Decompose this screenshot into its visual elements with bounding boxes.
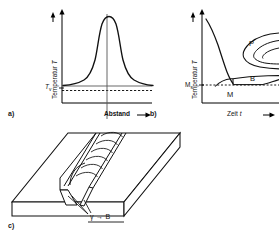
panel-b-graph [191,9,279,117]
callout-arrow-icon: → [96,213,104,220]
panel-a-y-label-arrow [51,12,56,22]
panel-b-pearlite-inner-lower [254,58,279,65]
panel-b-y-axis-label: Temperatur T [192,60,199,99]
panel-a-graph [51,9,153,119]
panel-b-region-bainite: B [250,75,255,83]
panel-b-y-label-arrow [191,12,196,22]
panel-b-x-axis-symbol: t [240,110,242,117]
panel-b-region-martensite: M [227,91,233,99]
panel-a-y-axis-arrow [59,9,64,15]
panel-a-threshold-subscript: v [49,87,51,92]
panel-a-y-axis-label: Temperatur T [52,60,59,99]
panel-b-x-axis-arrow [263,113,275,118]
panel-b-ms-label: Ms [185,82,193,91]
panel-a-x-axis-arrow [137,113,151,118]
callout-bainite-symbol: B [106,213,111,220]
panel-b-bainite-tail [263,80,279,85]
panel-c-tag: c) [8,222,14,229]
panel-a-y-axis-symbol: T [51,60,58,64]
panel-b-ms-subscript: s [190,85,192,90]
weld-transformation-callout: γ→B [90,213,111,220]
panel-b-bainite-top-edge [233,76,279,79]
panel-b-cooling-curve [206,19,233,84]
panel-a-x-axis-label: Abstand [104,111,130,118]
panel-b-tag: b) [150,110,157,117]
panel-b-y-axis-symbol: T [191,60,198,64]
panel-b-region-pearlite: P [249,40,254,48]
callout-gamma-symbol: γ [90,213,94,220]
figure-vector-artwork [0,0,279,243]
panel-b-y-axis-arrow [199,9,204,15]
panel-b-x-axis-label: Zeit t [227,111,241,118]
figure-root: Temperatur T Tv Abstand a) Temperatur T … [0,0,279,243]
panel-a-threshold-label: Tv [45,84,51,93]
panel-a-temperature-curve [63,17,153,86]
panel-c-weld-plate [12,132,180,222]
panel-a-tag: a) [8,110,14,117]
panel-b-pearlite-innermost [263,48,279,59]
